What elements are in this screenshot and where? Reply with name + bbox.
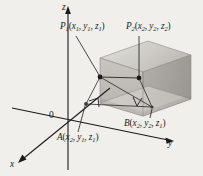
leader-a (78, 106, 85, 132)
p2-subscript: 2 (132, 25, 135, 32)
point-label-p1: P1(x1, y1, z1) (60, 22, 105, 31)
point-p1-dot (98, 75, 103, 80)
point-label-b: B(x2, y2, z1) (124, 119, 165, 128)
point-label-a: A(x2, y1, z1) (57, 133, 98, 142)
p1-name: P (60, 21, 66, 31)
point-p2-dot (137, 76, 142, 81)
x-axis-arrowhead (18, 154, 27, 163)
leader-p1 (76, 36, 99, 75)
p1-subscript: 1 (66, 25, 69, 32)
z-axis-label: z (62, 3, 66, 13)
x-axis-label: x (10, 160, 14, 170)
y-axis-label: y (168, 139, 172, 149)
right-angle-mark-a (89, 98, 99, 107)
point-b-dot (150, 105, 153, 108)
origin-label: 0 (49, 111, 54, 121)
point-label-p2: P2(x2, y2, z2) (126, 22, 171, 31)
p2-name: P (126, 21, 132, 31)
point-a-dot (84, 102, 88, 106)
